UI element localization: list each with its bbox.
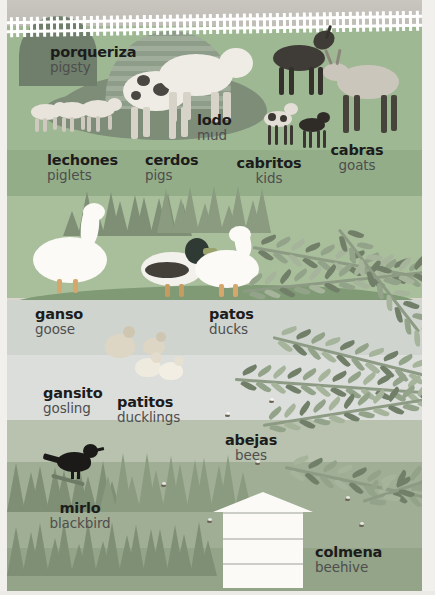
label-mud: lodomud: [197, 112, 231, 143]
label-gosling: gansitogosling: [43, 385, 103, 416]
fern-leaflet: [267, 406, 283, 420]
page-margin-bottom: [0, 591, 435, 595]
fence-picket: [203, 14, 206, 34]
fern-frond: [263, 396, 422, 427]
fern-leaflet: [414, 330, 421, 346]
bee-7: [269, 400, 274, 403]
label-goose: gansogoose: [35, 306, 83, 337]
fern-leaflet: [263, 271, 279, 286]
book-page: porquerizapigstylodomudlechonespigletsce…: [0, 0, 435, 595]
label-pigsty-es: porqueriza: [50, 44, 136, 60]
fern-leaflet: [338, 280, 355, 292]
label-ducklings: patitosducklings: [117, 394, 180, 425]
label-beehive-en: beehive: [315, 560, 382, 575]
label-pigsty-en: pigsty: [50, 60, 136, 75]
fern-leaflet: [292, 342, 307, 358]
fern-leaflet: [377, 283, 384, 299]
fence-picket: [349, 12, 352, 32]
fern-leaflet: [346, 371, 363, 384]
fern-leaflet: [412, 311, 422, 322]
fence-picket: [222, 14, 225, 34]
fence-picket: [356, 12, 359, 32]
fence-picket: [129, 15, 132, 35]
page-margin-left: [0, 0, 7, 595]
label-goats: cabrasgoats: [297, 142, 417, 173]
fence-picket: [389, 11, 392, 31]
bush-spike: [199, 540, 217, 576]
fern-leaflet: [260, 234, 277, 245]
fern-leaflet: [324, 281, 341, 295]
label-mud-en: mud: [197, 128, 231, 143]
illustration-scene: porquerizapigstylodomudlechonespigletsce…: [7, 0, 422, 595]
fence-picket: [156, 15, 159, 35]
fern-leaflet: [357, 241, 374, 252]
fence-picket: [89, 16, 92, 36]
fern-leaflet: [394, 289, 411, 298]
fern-leaflet: [324, 337, 341, 347]
fern-leaflet: [316, 383, 332, 398]
goat-light: [323, 45, 409, 135]
fern-leaflet: [281, 326, 298, 336]
fern-leaflet: [349, 480, 364, 496]
fern-leaflet: [292, 268, 309, 282]
fern-leaflet: [339, 340, 356, 351]
fence-picket: [143, 15, 146, 35]
fern-leaflet: [286, 367, 303, 379]
label-pigs-es: cerdos: [145, 152, 198, 168]
label-blackbird-es: mirlo: [20, 500, 140, 516]
fence-picket: [189, 14, 192, 34]
fence-picket: [256, 13, 259, 33]
goat-kid-1: [262, 103, 302, 147]
fern-leaflet: [305, 471, 320, 487]
fence-picket: [262, 13, 265, 33]
fence-picket: [96, 16, 99, 36]
beehive-super-1: [223, 512, 303, 538]
fern-fronds: [243, 228, 422, 528]
label-goats-en: goats: [297, 158, 417, 173]
fence-picket: [149, 15, 152, 35]
fence-picket: [16, 17, 19, 37]
fern-leaflet: [307, 266, 323, 281]
fern-leaflet: [336, 464, 353, 474]
fence-picket: [136, 15, 139, 35]
beehive: [219, 492, 307, 588]
fence-picket: [56, 16, 59, 36]
fence-picket: [229, 14, 232, 34]
fern-leaflet: [304, 242, 321, 253]
fence-picket: [36, 17, 39, 37]
label-piglets-es: lechones: [47, 152, 118, 168]
fern-leaflet: [295, 329, 312, 340]
fern-leaflet: [404, 318, 411, 334]
fern-leaflet: [412, 484, 422, 493]
label-kids-en: kids: [209, 171, 329, 186]
fence-picket: [216, 14, 219, 34]
fern-leaflet: [278, 269, 293, 285]
label-blackbird-en: blackbird: [20, 516, 140, 531]
fence-picket: [69, 16, 72, 36]
bee-4: [207, 520, 212, 523]
fern-leaflet: [275, 236, 292, 248]
fence-picket: [43, 17, 46, 37]
fern-leaflet: [279, 285, 296, 299]
duckling-2: [135, 358, 161, 377]
fern-leaflet: [297, 400, 312, 416]
label-pigsty: porquerizapigsty: [50, 44, 136, 75]
label-ducklings-es: patitos: [117, 394, 180, 410]
fern-leaflet: [358, 259, 365, 275]
fence-picket: [10, 17, 13, 37]
fern-leaflet: [290, 238, 307, 251]
blackbird: [49, 440, 119, 500]
label-ducks-en: ducks: [209, 322, 254, 337]
fern-leaflet: [382, 351, 399, 362]
fern-leaflet: [351, 467, 368, 479]
fern-leaflet: [347, 228, 364, 240]
fence-picket: [83, 16, 86, 36]
bush-upper-right: [157, 185, 277, 233]
fern-leaflet: [258, 248, 274, 263]
fence-picket: [196, 14, 199, 34]
fern-leaflet: [289, 468, 305, 483]
fence-picket: [236, 14, 239, 34]
fern-leaflet: [320, 474, 335, 490]
fern-leaflet: [301, 368, 318, 381]
label-bees-es: abejas: [191, 432, 311, 448]
